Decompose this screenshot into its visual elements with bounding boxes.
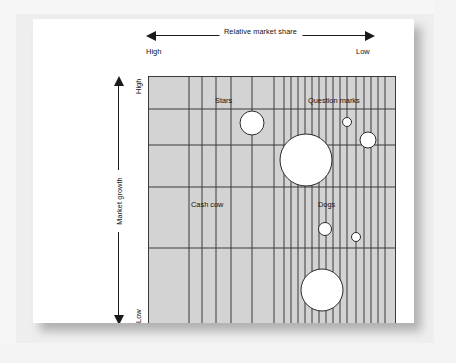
backdrop-band-top	[0, 0, 456, 14]
quadrant-label-stars: Stars	[215, 96, 232, 105]
horizontal-gridlines	[149, 109, 395, 248]
axis-market-growth: Market growth	[112, 76, 126, 323]
growth-share-matrix-plot[interactable]: StarsQuestion marksCash cowDogs	[148, 76, 396, 323]
axis-top-left-label: High	[146, 47, 161, 56]
question-bubble-large[interactable]	[280, 134, 332, 186]
axis-left-bottom-label: Low	[134, 309, 143, 323]
axis-top-caption: Relative market share	[219, 27, 302, 36]
backdrop-band-right	[434, 0, 456, 363]
arrow-right-icon	[365, 31, 375, 41]
backdrop-band-left	[0, 0, 16, 363]
arrow-down-icon	[114, 315, 124, 323]
dog-bubble-small[interactable]	[352, 233, 361, 242]
question-bubble-small[interactable]	[343, 118, 352, 127]
axis-top-right-label: Low	[356, 47, 370, 56]
quadrant-label-cash-cow: Cash cow	[191, 200, 223, 209]
axis-relative-market-share: Relative market share	[146, 29, 375, 43]
axis-left-top-label: High	[134, 79, 143, 94]
dog-bubble-large[interactable]	[301, 269, 343, 311]
star-bubble-1[interactable]	[240, 111, 264, 135]
quadrant-label-question-marks: Question marks	[308, 96, 360, 105]
question-bubble-medium[interactable]	[360, 132, 376, 148]
quadrant-label-dogs: Dogs	[318, 200, 335, 209]
matrix-grid-and-bubbles	[149, 77, 395, 323]
dog-bubble-medium[interactable]	[319, 223, 332, 236]
backdrop-band-bottom	[0, 343, 456, 363]
axis-left-caption: Market growth	[115, 170, 124, 232]
figure-card: Relative market share High Low Market gr…	[33, 19, 414, 323]
